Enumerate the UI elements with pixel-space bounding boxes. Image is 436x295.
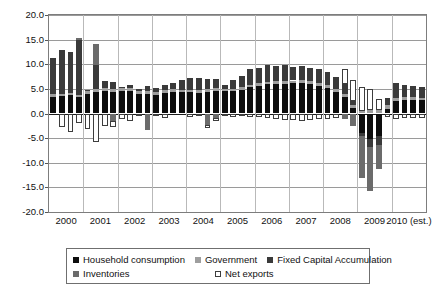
bar-group [179, 15, 185, 212]
bar-segment-fixed [282, 65, 288, 81]
bar-segment-government [110, 89, 116, 91]
bar-group [290, 15, 296, 212]
bar-segment-inventories [350, 114, 356, 127]
bar-segment-household [170, 92, 176, 114]
bar-segment-household [102, 91, 108, 114]
bar-segment-fixed [367, 139, 373, 147]
bar-segment-household [127, 91, 133, 114]
bar-group [170, 15, 176, 212]
bar-group [307, 15, 313, 212]
bar-segment-household [273, 84, 279, 114]
bar-segment-fixed [265, 65, 271, 82]
bar-segment-household [342, 97, 348, 113]
fixed-capital-swatch-icon [267, 257, 273, 263]
bar-segment-netexports [410, 114, 416, 118]
bar-group [205, 15, 211, 212]
bar-segment-fixed [50, 58, 56, 94]
bar-segment-fixed [68, 52, 74, 93]
bar-segment-netexports [153, 114, 159, 117]
bar-segment-government [265, 82, 271, 84]
bar-group [153, 15, 159, 212]
plot-inner [49, 15, 426, 212]
bar-group [239, 15, 245, 212]
bar-segment-fixed [342, 84, 348, 94]
bar-group [213, 15, 219, 212]
legend-item-fixed-capital-accumulation[interactable]: Fixed Capital Accumulation [267, 255, 392, 265]
bar-group [222, 15, 228, 212]
bar-group [93, 15, 99, 212]
legend-row: Household consumption Government Fixed C… [73, 253, 365, 267]
bar-segment-household [376, 114, 382, 137]
bar-segment-household [410, 100, 416, 114]
bar-segment-government [290, 81, 296, 84]
y-axis-tick-label: -5.0 [0, 133, 44, 143]
bar-segment-netexports [325, 114, 331, 120]
bar-segment-household [153, 95, 159, 114]
bar-segment-household [68, 95, 74, 114]
y-axis-tick-label: -15.0 [0, 182, 44, 192]
bar-segment-netexports [85, 114, 91, 129]
bar-segment-government [153, 92, 159, 95]
bar-segment-household [110, 92, 116, 114]
bar-segment-netexports [196, 114, 202, 117]
bar-segment-government [170, 89, 176, 91]
bar-segment-fixed [410, 86, 416, 97]
bar-group [85, 15, 91, 212]
bar-segment-netexports [247, 114, 253, 118]
bar-segment-household [299, 83, 305, 114]
bar-segment-inventories [376, 145, 382, 169]
bar-group [256, 15, 262, 212]
bar-segment-fixed [247, 69, 253, 85]
bar-group [136, 15, 142, 212]
bar-segment-fixed [179, 80, 185, 90]
bar-segment-fixed [85, 90, 91, 91]
bar-segment-netexports [282, 114, 288, 121]
bar-segment-government [273, 81, 279, 83]
bar-segment-household [307, 84, 313, 114]
bar-group [350, 15, 356, 212]
bar-group [68, 15, 74, 212]
bar-segment-netexports [307, 114, 313, 120]
bar-segment-government [145, 91, 151, 94]
bar-segment-household [179, 92, 185, 113]
bar-segment-household [230, 91, 236, 113]
bar-segment-netexports [76, 114, 82, 123]
bar-segment-netexports [127, 114, 133, 122]
bar-group [102, 15, 108, 212]
legend-item-net-exports[interactable]: Net exports [215, 269, 305, 279]
bar-segment-fixed [170, 83, 176, 89]
bar-segment-government [410, 97, 416, 99]
legend-item-government[interactable]: Government [195, 255, 257, 265]
bar-segment-fixed [230, 80, 236, 89]
bar-segment-inventories [110, 114, 116, 122]
bar-segment-netexports [119, 114, 125, 120]
bar-segment-household [239, 90, 245, 114]
bar-group [376, 15, 382, 212]
bar-segment-household [136, 94, 142, 114]
bar-group [393, 15, 399, 212]
bar-group [410, 15, 416, 212]
bar-segment-fixed [350, 101, 356, 105]
bar-segment-government [316, 83, 322, 86]
legend-item-inventories[interactable]: Inventories [73, 269, 205, 279]
bar-segment-fixed [102, 81, 108, 89]
bar-segment-netexports [93, 114, 99, 143]
bar-segment-netexports [110, 121, 116, 127]
bar-segment-inventories [205, 114, 211, 126]
bar-segment-government [136, 91, 142, 94]
bar-segment-government [50, 94, 56, 96]
legend-item-household-consumption[interactable]: Household consumption [73, 255, 185, 265]
bar-segment-fixed [162, 85, 168, 90]
bar-segment-household [265, 84, 271, 113]
bar-segment-government [179, 90, 185, 92]
bar-segment-household [333, 92, 339, 114]
bar-group [316, 15, 322, 212]
bar-segment-government [222, 89, 228, 91]
bar-segment-government [85, 91, 91, 93]
stacked-bar-chart: 20.015.010.05.00.0-5.0-10.0-15.0-20.0 20… [0, 0, 436, 295]
y-axis-tick-label: 20.0 [0, 10, 44, 20]
bar-group [230, 15, 236, 212]
legend-label: Net exports [225, 269, 274, 279]
bar-group [110, 15, 116, 212]
bar-segment-netexports [419, 114, 425, 119]
